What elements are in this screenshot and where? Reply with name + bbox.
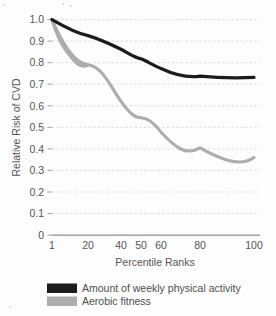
x-tick-label: 40	[115, 239, 127, 251]
chart-legend: Amount of weekly physical activity Aerob…	[47, 282, 241, 307]
legend-label-weekly-activity: Amount of weekly physical activity	[82, 282, 241, 294]
y-tick-label: 0.5	[29, 121, 44, 133]
y-tick-label: 0.6	[29, 100, 44, 112]
y-tick-label: 0.3	[29, 164, 44, 176]
x-tick-label: 80	[194, 239, 206, 251]
chart-figure: 1.0 0.9 0.8 0.7 0.6 0.5 0.4 0.3 0.2 0.1 …	[0, 0, 276, 316]
x-tick-label: 50	[135, 239, 147, 251]
legend-swatch-aerobic-fitness	[47, 297, 77, 307]
y-tick-label: 0.8	[29, 56, 44, 68]
legend-label-aerobic-fitness: Aerobic fitness	[82, 295, 151, 307]
y-tick-label: 1.0	[29, 13, 44, 25]
y-tick-labels: 1.0 0.9 0.8 0.7 0.6 0.5 0.4 0.3 0.2 0.1 …	[29, 13, 44, 241]
x-tick-label: 100	[245, 239, 263, 251]
y-tick-label: 0.7	[29, 78, 44, 90]
y-tick-label: 0.4	[29, 143, 44, 155]
x-axis-title: Percentile Ranks	[115, 256, 194, 268]
y-tick-marks	[48, 20, 53, 236]
y-axis-title: Relative Risk of CVD	[10, 78, 22, 176]
gridlines	[52, 20, 260, 214]
x-tick-label: 60	[155, 239, 167, 251]
series-curve-aerobic-fitness	[52, 20, 88, 66]
x-tick-label: 1	[49, 239, 55, 251]
chart-plot: 1.0 0.9 0.8 0.7 0.6 0.5 0.4 0.3 0.2 0.1 …	[0, 0, 276, 316]
series-curve-weekly-activity	[52, 20, 254, 78]
x-tick-labels: 1 20 40 50 60 80 100	[49, 239, 263, 251]
y-tick-label: 0.2	[29, 186, 44, 198]
y-tick-label: 0	[38, 229, 44, 241]
x-tick-label: 20	[82, 239, 94, 251]
y-tick-label: 0.1	[29, 207, 44, 219]
legend-swatch-weekly-activity	[47, 284, 77, 294]
y-tick-label: 0.9	[29, 35, 44, 47]
